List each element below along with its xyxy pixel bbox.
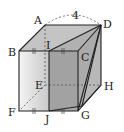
vertex-label-a: A bbox=[33, 14, 43, 27]
point-label-i: I bbox=[46, 39, 50, 52]
vertex-label-d: D bbox=[103, 18, 112, 31]
vertex-label-c: C bbox=[81, 51, 89, 64]
edge-length-label: 4 bbox=[72, 9, 79, 22]
vertex-label-h: H bbox=[104, 80, 114, 93]
point-label-j: J bbox=[44, 113, 49, 126]
vertex-label-e: E bbox=[35, 79, 43, 92]
vertex-label-b: B bbox=[8, 46, 16, 59]
front-left-face bbox=[19, 51, 49, 111]
vertex-label-g: G bbox=[81, 109, 90, 122]
cube-diagram: 4 A D B I C E H F J G bbox=[0, 0, 124, 132]
vertex-label-f: F bbox=[8, 106, 16, 119]
